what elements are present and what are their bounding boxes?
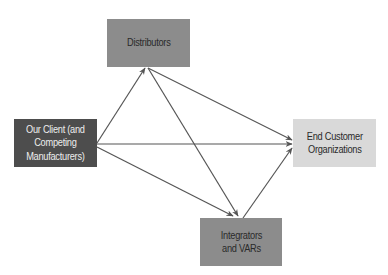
edge-client-to-integrators — [97, 147, 233, 216]
node-integrators-label: Integrators and VARs — [220, 229, 261, 256]
node-end-customer-label: End Customer Organizations — [307, 130, 363, 157]
edge-integrators-to-end-customer — [243, 148, 292, 218]
channel-diagram: Our Client (and Competing Manufacturers)… — [0, 0, 388, 275]
edge-client-to-distributors — [97, 68, 145, 143]
node-distributors-label: Distributors — [127, 36, 171, 50]
node-integrators-and-vars: Integrators and VARs — [200, 218, 282, 266]
node-our-client-label: Our Client (and Competing Manufacturers) — [26, 123, 85, 164]
node-end-customer-organizations: End Customer Organizations — [293, 119, 376, 167]
node-distributors: Distributors — [107, 19, 190, 67]
node-our-client: Our Client (and Competing Manufacturers) — [14, 119, 97, 167]
